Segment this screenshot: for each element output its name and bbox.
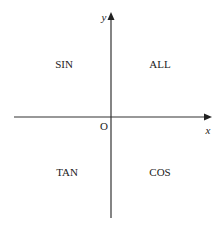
y-axis-label: y <box>102 12 107 23</box>
y-axis-arrow-icon <box>108 12 115 20</box>
x-axis-label: x <box>206 125 211 136</box>
quadrant-diagram: y O x SIN ALL TAN COS <box>0 0 221 229</box>
axes-graphic <box>0 0 221 229</box>
x-axis-arrow-icon <box>204 114 212 121</box>
quadrant-label-cos: COS <box>149 167 170 178</box>
origin-label: O <box>100 121 108 132</box>
quadrant-label-tan: TAN <box>56 167 78 178</box>
quadrant-label-sin: SIN <box>55 59 73 70</box>
quadrant-label-all: ALL <box>149 59 170 70</box>
